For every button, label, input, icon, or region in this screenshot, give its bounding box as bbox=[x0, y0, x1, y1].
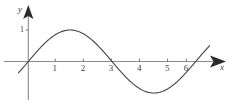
x-tick-label-1: 1 bbox=[53, 64, 58, 73]
x-tick-label-5: 5 bbox=[165, 64, 170, 73]
x-axis-label: x bbox=[220, 63, 224, 72]
x-tick-label-2: 2 bbox=[81, 64, 86, 73]
plot-canvas bbox=[0, 0, 235, 109]
x-tick-label-4: 4 bbox=[137, 64, 142, 73]
x-tick-label-3: 3 bbox=[109, 64, 114, 73]
y-unit-label: 1 bbox=[20, 26, 24, 34]
y-axis-label: y bbox=[18, 5, 22, 14]
x-tick-label-6: 6 bbox=[184, 64, 189, 73]
sine-curve-figure: y 1 x 1 2 3 4 5 6 bbox=[0, 0, 235, 109]
